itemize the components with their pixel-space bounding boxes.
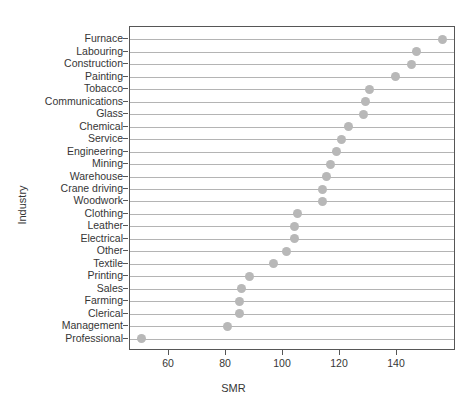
y-axis-tick-label: Glass [3, 108, 123, 119]
y-axis-tick-label: Service [3, 133, 123, 144]
y-axis-tick-mark [123, 163, 128, 164]
x-axis-ticks: 6080100120140 [0, 350, 467, 380]
y-axis-tick-mark [123, 200, 128, 201]
y-axis-tick-label: Tobacco [3, 83, 123, 94]
data-point[interactable] [407, 60, 416, 69]
data-point[interactable] [235, 297, 244, 306]
y-axis-tick-label: Textile [3, 257, 123, 268]
y-axis-tick-mark [123, 263, 128, 264]
y-axis-tick-mark [123, 88, 128, 89]
gridline [130, 127, 454, 128]
data-point[interactable] [326, 160, 335, 169]
y-axis-tick-label: Furnace [3, 33, 123, 44]
y-axis-tick-mark [123, 151, 128, 152]
x-axis-tick-label: 120 [330, 357, 348, 369]
y-axis-tick-mark [123, 138, 128, 139]
x-axis-tick-label: 80 [219, 357, 231, 369]
gridline [130, 39, 454, 40]
y-axis-tick-label: Farming [3, 295, 123, 306]
gridline [130, 289, 454, 290]
gridline [130, 314, 454, 315]
data-point[interactable] [293, 209, 302, 218]
y-axis-tick-label: Mining [3, 158, 123, 169]
y-axis-tick-label: Other [3, 245, 123, 256]
data-point[interactable] [365, 85, 374, 94]
y-axis-tick-mark [123, 288, 128, 289]
y-axis-tick-mark [123, 313, 128, 314]
y-axis-tick-label: Painting [3, 70, 123, 81]
data-point[interactable] [318, 185, 327, 194]
gridline [130, 189, 454, 190]
gridline [130, 164, 454, 165]
gridline [130, 251, 454, 252]
y-axis-tick-label: Chemical [3, 120, 123, 131]
plot-area [129, 26, 455, 350]
y-axis-tick-mark [123, 51, 128, 52]
y-axis-tick-label: Management [3, 320, 123, 331]
gridline [130, 139, 454, 140]
data-point[interactable] [359, 110, 368, 119]
data-point[interactable] [282, 247, 291, 256]
data-point[interactable] [332, 147, 341, 156]
y-axis-tick-label: Sales [3, 282, 123, 293]
gridline [130, 52, 454, 53]
data-point[interactable] [290, 222, 299, 231]
y-axis-tick-label: Electrical [3, 232, 123, 243]
data-point[interactable] [412, 47, 421, 56]
x-axis-tick-label: 140 [387, 357, 405, 369]
y-axis-tick-mark [123, 38, 128, 39]
y-axis-tick-label: Clerical [3, 307, 123, 318]
y-axis-tick-mark [123, 250, 128, 251]
y-axis-tick-mark [123, 213, 128, 214]
x-axis-tick-mark [339, 350, 340, 355]
data-point[interactable] [237, 284, 246, 293]
y-axis-tick-mark [123, 176, 128, 177]
y-axis-tick-mark [123, 188, 128, 189]
y-axis-tick-mark [123, 325, 128, 326]
gridline [130, 301, 454, 302]
y-axis-tick-mark [123, 63, 128, 64]
gridline [130, 152, 454, 153]
x-axis-tick-mark [225, 350, 226, 355]
y-axis-tick-mark [123, 238, 128, 239]
y-axis-tick-label: Construction [3, 58, 123, 69]
y-axis-tick-mark [123, 275, 128, 276]
gridline [130, 89, 454, 90]
x-axis-tick-mark [282, 350, 283, 355]
data-point[interactable] [322, 172, 331, 181]
x-axis-tick-label: 100 [273, 357, 291, 369]
y-axis-tick-label: Professional [3, 332, 123, 343]
gridline [130, 276, 454, 277]
data-point[interactable] [344, 122, 353, 131]
data-point[interactable] [245, 272, 254, 281]
gridline [130, 64, 454, 65]
gridline [130, 264, 454, 265]
data-point[interactable] [269, 259, 278, 268]
gridline [130, 77, 454, 78]
x-axis-title: SMR [0, 382, 467, 394]
y-axis-tick-mark [123, 338, 128, 339]
x-axis-tick-label: 60 [162, 357, 174, 369]
data-point[interactable] [337, 135, 346, 144]
data-point[interactable] [290, 234, 299, 243]
gridline [130, 339, 454, 340]
data-point[interactable] [223, 322, 232, 331]
y-axis-tick-mark [123, 113, 128, 114]
gridline [130, 326, 454, 327]
data-point[interactable] [137, 334, 146, 343]
data-point[interactable] [318, 197, 327, 206]
y-axis-tick-mark [123, 126, 128, 127]
gridline [130, 114, 454, 115]
y-axis-tick-label: Printing [3, 270, 123, 281]
data-point[interactable] [438, 35, 447, 44]
gridline [130, 201, 454, 202]
gridline [130, 214, 454, 215]
y-axis-tick-mark [123, 76, 128, 77]
data-point[interactable] [391, 72, 400, 81]
data-point[interactable] [361, 97, 370, 106]
x-axis-tick-mark [168, 350, 169, 355]
y-axis-tick-mark [123, 300, 128, 301]
data-point[interactable] [235, 309, 244, 318]
gridline [130, 102, 454, 103]
x-axis-tick-mark [396, 350, 397, 355]
